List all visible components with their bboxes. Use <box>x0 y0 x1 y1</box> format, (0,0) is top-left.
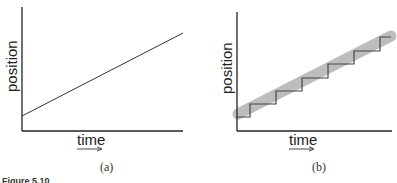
figure: position time (a) position time (b) Figu… <box>0 0 397 183</box>
panel-b-trend-band <box>238 36 391 114</box>
panel-a-x-label: time <box>77 131 105 148</box>
panel-a-caption: (a) <box>100 160 113 175</box>
figure-number: Figure 5.10 <box>2 176 50 183</box>
figure-graphics <box>0 0 397 183</box>
panel-a-plot <box>22 7 183 151</box>
panel-b-x-label: time <box>289 131 317 148</box>
panel-b-caption: (b) <box>312 160 326 175</box>
panel-a-y-label: position <box>3 40 20 92</box>
panel-b-y-label: position <box>218 42 235 94</box>
panel-a-position-line <box>22 33 183 116</box>
